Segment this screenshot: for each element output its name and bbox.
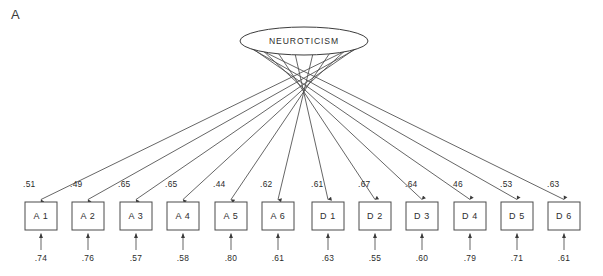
loading-arrow [231,53,330,199]
residual-coefficient-label: .57 [130,253,143,263]
residual-coefficient-labels-group: .74.76.57.58.80.61.63.55.60.79.71.61 [35,253,571,263]
residual-coefficient-label: .55 [369,253,382,263]
residual-coefficient-label: .74 [35,253,48,263]
loading-coefficient-label: .63 [547,179,560,189]
indicator-label: D 3 [414,211,430,221]
indicator-label: D 6 [556,211,572,221]
cfa-path-diagram-canvas: A NEUROTICISM A 1A 2A 3A 4A 5A 6D 1D 2D … [0,0,603,276]
residual-coefficient-label: .58 [177,253,190,263]
indicator-label: D 5 [509,211,525,221]
loading-arrow [278,54,313,199]
indicator-label: A 1 [34,211,49,221]
residual-coefficient-label: .76 [82,253,95,263]
indicator-label: D 1 [320,211,336,221]
loading-coefficient-label: .64 [405,179,418,189]
indicator-boxes-group: A 1A 2A 3A 4A 5A 6D 1D 2D 3D 4D 5D 6 [25,202,580,230]
loading-arrow [278,53,375,199]
residual-paths-group [41,234,564,251]
indicator-label: A 4 [176,211,191,221]
loading-coefficient-label: .49 [70,179,83,189]
loading-coefficient-label: .61 [311,179,324,189]
residual-coefficient-label: .61 [558,253,571,263]
indicator-label: A 3 [129,211,144,221]
loading-coefficient-labels-group: .51.49.65.65.44.62.61.67.6446.53.63 [23,179,560,189]
indicator-label: A 5 [224,211,239,221]
loading-coefficient-label: .65 [118,179,131,189]
residual-coefficient-label: .79 [464,253,477,263]
loading-arrow [264,51,422,199]
loading-coefficient-label: .62 [260,179,273,189]
loading-coefficient-label: 46 [453,179,463,189]
loading-arrow [245,45,517,200]
residual-coefficient-label: .60 [416,253,429,263]
loading-arrow [88,45,363,200]
loading-coefficient-label: .44 [213,179,226,189]
path-diagram-figure: A NEUROTICISM A 1A 2A 3A 4A 5A 6D 1D 2D … [0,0,603,276]
loading-arrow [41,41,366,200]
indicator-label: D 2 [367,211,383,221]
indicator-label: A 6 [271,211,286,221]
loading-coefficient-label: .65 [165,179,178,189]
loading-arrow [183,51,344,199]
indicator-label: A 2 [81,211,96,221]
loading-paths-group [41,41,564,200]
loading-coefficient-label: .67 [358,179,371,189]
loading-coefficient-label: .51 [23,179,36,189]
latent-variable-label: NEUROTICISM [269,36,339,46]
residual-coefficient-label: .61 [272,253,285,263]
loading-arrow [242,41,564,200]
residual-coefficient-label: .80 [225,253,238,263]
loading-arrow [252,48,470,199]
indicator-label: D 4 [462,211,478,221]
residual-coefficient-label: .71 [511,253,524,263]
residual-coefficient-label: .63 [322,253,335,263]
loading-coefficient-label: .53 [500,179,513,189]
panel-label: A [11,7,20,22]
